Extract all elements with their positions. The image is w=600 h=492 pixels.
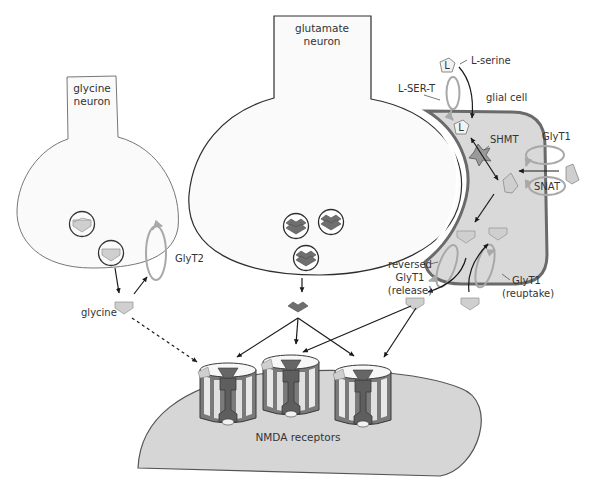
glycine-reuptake: [461, 298, 479, 310]
l-serine-extracellular: L: [440, 58, 455, 72]
reversed-glyt1-label-3: (release): [388, 285, 432, 296]
svg-text:L: L: [444, 60, 450, 71]
l-serine-label: L-serine: [471, 55, 511, 66]
glutamate-molecule: [288, 302, 308, 312]
nmda-receptor-2: [261, 355, 319, 417]
glycine-released-glial: [406, 298, 424, 310]
glyt1-reuptake-label-1: GlyT1: [512, 275, 541, 286]
reversed-glyt1-label-2: GlyT1: [396, 272, 425, 283]
glutamate-vesicle-3: [294, 246, 319, 271]
glyt1-upper-label: GlyT1: [542, 131, 571, 142]
glycine-neuron-label-1: glycine: [73, 82, 111, 94]
shmt-label: SHMT: [490, 134, 519, 145]
snat-label: SNAT: [534, 181, 561, 192]
diagram-canvas: NMDA receptors glycine neuron GlyT2 glyc…: [0, 0, 600, 492]
glyt1-reuptake-label-2: (reuptake): [502, 288, 554, 299]
glial-cell-label: glial cell: [486, 92, 527, 103]
glycine-neuron-label-2: neuron: [74, 95, 111, 107]
glycine-label: glycine: [81, 307, 117, 318]
svg-text:L: L: [458, 122, 464, 133]
glutamate-vesicle-1: [284, 214, 309, 239]
glutamate-vesicle-2: [319, 210, 344, 235]
glutamate-neuron-label-1: glutamate: [295, 22, 349, 34]
glycine-extracellular-right: [566, 164, 579, 184]
l-ser-t-label: L-SER-T: [398, 83, 436, 94]
nmda-receptor-3: [333, 365, 391, 427]
glyt2-label: GlyT2: [175, 253, 204, 264]
l-ser-t-transporter-icon: [447, 77, 460, 109]
nmda-receptor-1: [198, 363, 256, 425]
glutamate-neuron-label-2: neuron: [304, 35, 341, 47]
glycine-molecule: [115, 302, 133, 314]
reversed-glyt1-label-1: reversed: [388, 259, 432, 270]
glycine-diffusion-arrow: [132, 318, 197, 362]
glutamate-neuron: [189, 16, 462, 275]
nmda-receptors-label: NMDA receptors: [255, 431, 340, 443]
